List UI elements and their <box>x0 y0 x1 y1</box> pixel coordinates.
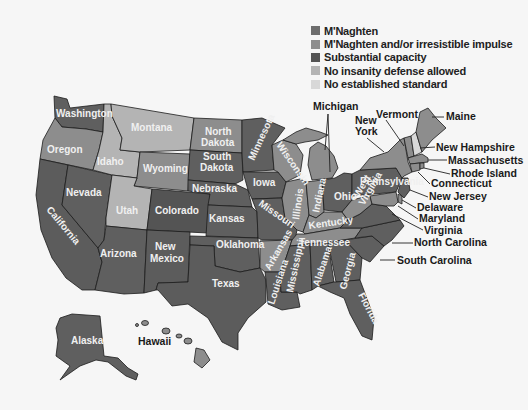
label-idaho: Idaho <box>97 156 124 167</box>
legend-swatch <box>311 26 320 35</box>
label-maryland: Maryland <box>419 212 465 224</box>
label-washington: Washington <box>56 108 113 119</box>
label-nevada: Nevada <box>66 187 102 198</box>
label-wyoming: Wyoming <box>143 163 188 174</box>
label-pennsylvania: Pennsylvania <box>360 176 424 187</box>
leader-michigan <box>325 114 328 150</box>
label-connecticut: Connecticut <box>431 177 492 189</box>
label-nebraska: Nebraska <box>192 183 237 194</box>
label-iowa: Iowa <box>253 177 276 188</box>
legend-label: No insanity defense allowed <box>324 65 466 77</box>
label-new-mexico-2: Mexico <box>150 253 184 264</box>
state-michigan-up[interactable] <box>283 128 328 144</box>
label-texas: Texas <box>212 278 240 289</box>
label-oregon: Oregon <box>47 144 83 155</box>
legend-item-mnaghten: M'Naghten <box>311 24 512 37</box>
label-massachusetts: Massachusetts <box>448 154 523 166</box>
label-oklahoma: Oklahoma <box>216 239 265 250</box>
label-montana: Montana <box>131 122 173 133</box>
legend-item-no-insanity-defense: No insanity defense allowed <box>311 64 512 77</box>
legend-swatch <box>311 53 320 62</box>
legend-item-substantial-capacity: Substantial capacity <box>311 51 512 64</box>
label-arizona: Arizona <box>100 248 137 259</box>
label-vermont: Vermont <box>376 108 419 120</box>
leader-maryland <box>398 206 418 219</box>
label-alaska: Alaska <box>71 335 104 346</box>
label-maine: Maine <box>446 110 476 122</box>
legend-item-no-established-standard: No established standard <box>311 78 512 91</box>
label-kansas: Kansas <box>209 213 245 224</box>
leader-new-york <box>367 138 384 152</box>
label-south-carolina: South Carolina <box>397 254 472 266</box>
legend: M'Naghten M'Naghten and/or irresistible … <box>311 24 512 91</box>
state-connecticut[interactable] <box>410 163 420 172</box>
label-south-dakota-2: Dakota <box>200 162 234 173</box>
legend-swatch <box>311 40 320 49</box>
leader-delaware <box>402 200 416 208</box>
label-new-mexico-1: New <box>155 241 176 252</box>
label-utah: Utah <box>116 205 138 216</box>
label-north-dakota-1: North <box>205 126 232 137</box>
state-michigan[interactable] <box>308 142 338 180</box>
leader-rhode-island <box>424 168 450 174</box>
label-virginia: Virginia <box>424 224 462 236</box>
legend-label: M'Naghten and/or irresistible impulse <box>324 38 512 50</box>
legend-label: M'Naghten <box>324 25 378 37</box>
label-new-york-2: York <box>355 125 378 137</box>
leader-new-jersey <box>410 190 428 197</box>
label-colorado: Colorado <box>155 205 199 216</box>
label-north-carolina: North Carolina <box>414 236 487 248</box>
legend-label: Substantial capacity <box>324 51 426 63</box>
legend-label: No established standard <box>324 78 447 90</box>
label-north-dakota-2: Dakota <box>201 137 235 148</box>
label-new-hampshire: New Hampshire <box>436 141 515 153</box>
state-alaska[interactable] <box>56 314 138 380</box>
state-rhode-island[interactable] <box>420 163 424 169</box>
legend-item-irresistible-impulse: M'Naghten and/or irresistible impulse <box>311 37 512 50</box>
legend-swatch <box>311 66 320 75</box>
label-michigan: Michigan <box>313 100 359 112</box>
legend-swatch <box>311 80 320 89</box>
state-delaware[interactable] <box>398 194 402 204</box>
label-south-dakota-1: South <box>203 151 231 162</box>
leader-vermont <box>386 120 404 146</box>
label-hawaii: Hawaii <box>138 335 171 347</box>
